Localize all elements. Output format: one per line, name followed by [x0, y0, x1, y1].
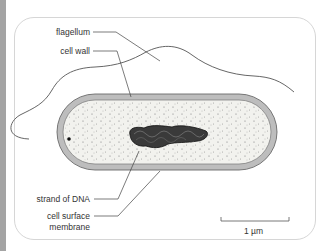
label-flagellum: flagellum — [40, 27, 90, 37]
basal-body — [67, 137, 71, 141]
label-membrane-2: membrane — [20, 222, 90, 232]
label-membrane-1: cell surface — [20, 211, 90, 221]
label-dna: strand of DNA — [20, 194, 90, 204]
label-cell-wall: cell wall — [40, 46, 90, 56]
leader-cell-wall — [93, 51, 131, 97]
leader-flagellum — [93, 32, 160, 61]
scale-label: 1 µm — [244, 226, 263, 236]
scale-bar — [221, 217, 289, 221]
